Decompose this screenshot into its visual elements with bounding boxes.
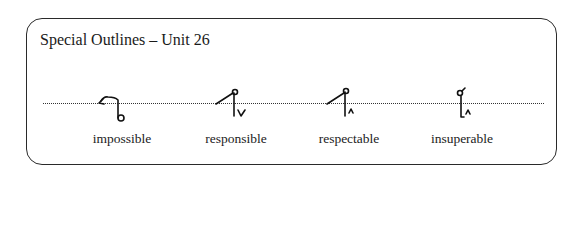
outline-label-respectable: respectable <box>289 131 409 147</box>
respectable-outline-icon <box>327 89 353 117</box>
insuperable-outline-icon <box>458 88 471 117</box>
outline-label-insuperable: insuperable <box>402 131 522 147</box>
impossible-outline-icon <box>99 97 124 121</box>
responsible-outline-icon <box>216 90 245 117</box>
outline-label-impossible: impossible <box>62 131 182 147</box>
outline-label-responsible: responsible <box>176 131 296 147</box>
